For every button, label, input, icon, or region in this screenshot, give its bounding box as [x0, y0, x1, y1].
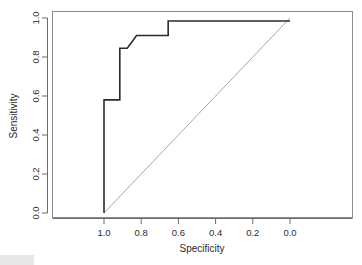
- y-axis-tick-label: 0.8: [30, 50, 41, 63]
- scan-artifact: [0, 255, 34, 265]
- roc-plot-figure: 1.00.80.60.40.20.0 Specificity 0.00.20.4…: [0, 0, 362, 265]
- y-axis: 0.00.20.40.60.81.0 Sensitivity: [8, 11, 48, 219]
- roc-plot-canvas: 1.00.80.60.40.20.0 Specificity 0.00.20.4…: [0, 0, 362, 265]
- y-axis-tick-label: 0.6: [30, 89, 41, 102]
- x-axis-ticks: [104, 219, 290, 225]
- x-axis-tick-label: 0.6: [172, 227, 185, 238]
- x-axis-tick-label: 0.8: [135, 227, 148, 238]
- y-axis-tick-label: 0.4: [30, 128, 41, 141]
- y-axis-tick-label: 0.0: [30, 206, 41, 219]
- y-axis-ticks: [42, 18, 48, 213]
- chance-reference-line: [104, 18, 290, 213]
- x-axis-title: Specificity: [179, 243, 224, 254]
- x-axis-tick-label: 0.2: [246, 227, 259, 238]
- y-axis-tick-labels: 0.00.20.40.60.81.0: [30, 11, 41, 219]
- x-axis-tick-label: 1.0: [97, 227, 110, 238]
- x-axis: 1.00.80.60.40.20.0 Specificity: [53, 219, 353, 255]
- y-axis-title: Sensitivity: [8, 93, 19, 138]
- y-axis-tick-label: 0.2: [30, 167, 41, 180]
- x-axis-tick-labels: 1.00.80.60.40.20.0: [97, 227, 296, 238]
- y-axis-tick-label: 1.0: [30, 11, 41, 24]
- x-axis-tick-label: 0.0: [283, 227, 296, 238]
- plot-box-border: [53, 12, 353, 218]
- x-axis-tick-label: 0.4: [209, 227, 222, 238]
